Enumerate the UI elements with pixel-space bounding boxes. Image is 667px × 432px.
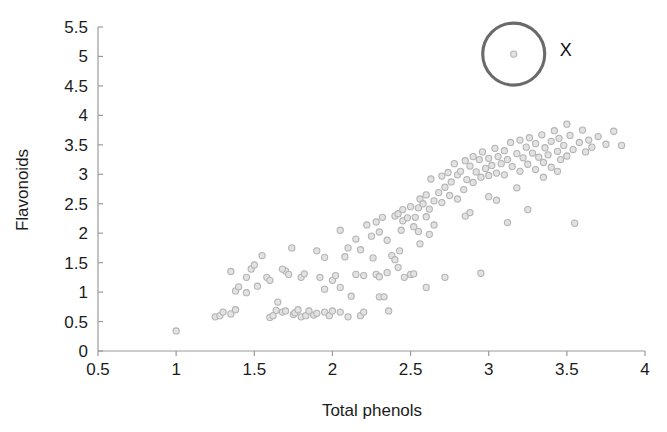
data-point [431,222,437,228]
data-point [243,290,249,296]
data-point [511,51,517,57]
data-point [426,206,432,212]
data-point [314,310,320,316]
data-point [462,158,468,164]
data-point [345,245,351,251]
data-point [301,271,307,277]
data-point [556,135,562,141]
y-tick-label: 0 [79,342,88,361]
data-point [540,174,546,180]
data-point [501,148,507,154]
data-point [426,231,432,237]
data-point [589,144,595,150]
data-point [368,233,374,239]
data-point [439,199,445,205]
data-point [397,248,403,254]
data-point [439,173,445,179]
data-point [611,128,617,134]
data-point [411,271,417,277]
data-point [564,121,570,127]
data-point [431,198,437,204]
data-point [509,164,515,170]
data-point [398,227,404,233]
x-tick-label: 3.5 [555,360,579,379]
data-point [583,149,589,155]
data-point [376,229,382,235]
data-point [504,156,510,162]
scatter-plot-figure: 0.511.522.533.5400.511.522.533.544.555.5… [0,0,667,432]
data-point [492,145,498,151]
data-point [586,137,592,143]
y-tick-label: 4 [79,106,88,125]
data-point [542,145,548,151]
data-point [567,132,573,138]
data-point [401,274,407,280]
data-point [428,176,434,182]
data-point [470,154,476,160]
data-point [536,154,542,160]
data-point [447,192,453,198]
data-point [520,155,526,161]
data-point [314,248,320,254]
data-point [493,170,499,176]
data-point [539,132,545,138]
data-point [232,307,238,313]
data-point [286,271,292,277]
data-point [533,166,539,172]
data-point [423,284,429,290]
data-point [478,270,484,276]
data-point [332,273,338,279]
y-tick-label: 5 [79,47,88,66]
x-tick-label: 2.5 [399,360,423,379]
data-point [322,254,328,260]
y-tick-label: 1.5 [64,254,88,273]
x-tick-label: 2 [328,360,337,379]
data-point [345,314,351,320]
data-point [461,186,467,192]
y-tick-label: 2 [79,224,88,243]
data-point [554,168,560,174]
data-point [618,142,624,148]
data-point [337,309,343,315]
data-point [572,220,578,226]
data-point [317,274,323,280]
data-point [579,127,585,133]
data-point [445,169,451,175]
data-point [384,237,390,243]
data-point [467,209,473,215]
y-tick-label: 2.5 [64,195,88,214]
data-point [337,227,343,233]
data-point [379,214,385,220]
data-point [251,262,257,268]
data-point [554,148,560,154]
data-point [412,214,418,220]
data-point [603,141,609,147]
y-axis-title: Flavonoids [13,149,32,231]
x-axis-title: Total phenols [322,401,422,420]
data-point [282,308,288,314]
data-point [386,308,392,314]
y-tick-label: 3 [79,165,88,184]
data-point [415,228,421,234]
data-point [486,155,492,161]
data-point [243,274,249,280]
data-point [507,139,513,145]
data-point [442,274,448,280]
data-point [523,144,529,150]
data-point [400,207,406,213]
data-point [540,159,546,165]
data-point [495,154,501,160]
data-point [561,142,567,148]
data-point [442,184,448,190]
data-point [464,176,470,182]
data-point [533,141,539,147]
data-point [504,219,510,225]
data-point [353,271,359,277]
data-point [478,174,484,180]
data-point [361,309,367,315]
data-point [498,161,504,167]
data-point [381,294,387,300]
data-point [467,163,473,169]
data-point [329,308,335,314]
data-point [548,138,554,144]
